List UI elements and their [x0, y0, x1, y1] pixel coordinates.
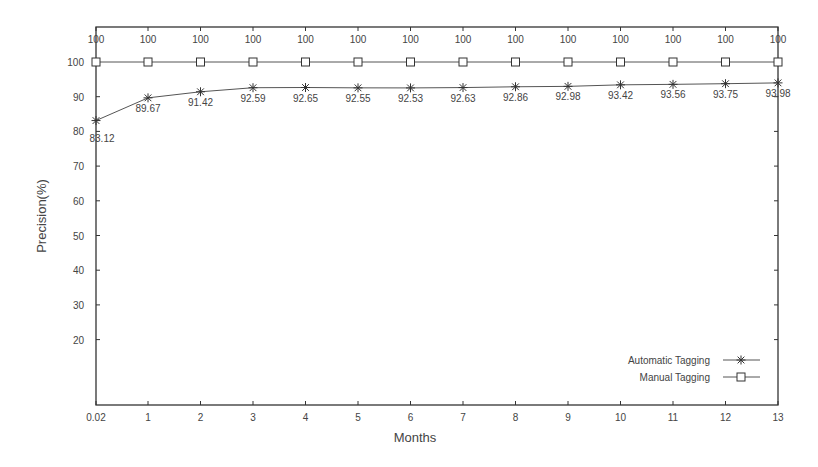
- data-label: 92.63: [450, 93, 475, 104]
- y-tick-label: 60: [73, 196, 85, 207]
- asterisk-marker-icon: [92, 116, 101, 125]
- asterisk-marker-icon: [511, 82, 520, 91]
- data-label: 100: [665, 34, 682, 45]
- legend-label: Automatic Tagging: [628, 355, 710, 366]
- data-label: 92.65: [293, 93, 318, 104]
- asterisk-marker-icon: [669, 80, 678, 89]
- y-tick-label: 100: [67, 57, 84, 68]
- series-manual-tagging: [92, 58, 782, 66]
- data-label: 92.53: [398, 93, 423, 104]
- data-label: 100: [770, 34, 787, 45]
- asterisk-marker-icon: [354, 83, 363, 92]
- data-label: 93.75: [713, 89, 738, 100]
- y-tick-label: 30: [73, 300, 85, 311]
- asterisk-marker-icon: [721, 79, 730, 88]
- data-label: 83.12: [89, 133, 114, 144]
- data-label: 92.59: [240, 93, 265, 104]
- square-marker-icon: [144, 58, 152, 66]
- x-tick-label: 3: [250, 412, 256, 423]
- x-tick-label: 10: [615, 412, 627, 423]
- data-label: 100: [350, 34, 367, 45]
- asterisk-marker-icon: [301, 83, 310, 92]
- y-tick-label: 20: [73, 335, 85, 346]
- asterisk-marker-icon: [249, 83, 258, 92]
- data-label: 100: [507, 34, 524, 45]
- data-label: 100: [140, 34, 157, 45]
- x-tick-label: 5: [355, 412, 361, 423]
- square-marker-icon: [459, 58, 467, 66]
- legend-item: Manual Tagging: [640, 372, 760, 383]
- data-label: 100: [297, 34, 314, 45]
- asterisk-marker-icon: [564, 82, 573, 91]
- square-marker-icon: [617, 58, 625, 66]
- y-tick-label: 40: [73, 265, 85, 276]
- y-tick-label: 80: [73, 126, 85, 137]
- data-label: 92.86: [503, 92, 528, 103]
- square-marker-icon: [722, 58, 730, 66]
- y-tick-label: 70: [73, 161, 85, 172]
- data-labels: 83.1289.6791.4292.5992.6592.5592.5392.63…: [88, 34, 791, 144]
- square-marker-icon: [354, 58, 362, 66]
- x-tick-label: 11: [668, 412, 679, 423]
- legend: Automatic TaggingManual Tagging: [628, 355, 760, 383]
- data-label: 89.67: [135, 103, 160, 114]
- y-tick-label: 50: [73, 231, 85, 242]
- square-marker-icon: [407, 58, 415, 66]
- square-marker-icon: [737, 373, 745, 381]
- legend-item: Automatic Tagging: [628, 355, 760, 366]
- x-tick-label: 7: [460, 412, 466, 423]
- square-marker-icon: [249, 58, 257, 66]
- asterisk-marker-icon: [616, 80, 625, 89]
- x-axis-title: Months: [394, 430, 437, 445]
- x-tick-label: 2: [198, 412, 204, 423]
- data-label: 93.56: [660, 89, 685, 100]
- square-marker-icon: [774, 58, 782, 66]
- data-label: 100: [455, 34, 472, 45]
- asterisk-marker-icon: [774, 78, 783, 87]
- square-marker-icon: [197, 58, 205, 66]
- plot-border: [96, 27, 778, 405]
- asterisk-marker-icon: [737, 356, 746, 365]
- asterisk-marker-icon: [196, 87, 205, 96]
- x-tick-label: 0.02: [86, 412, 106, 423]
- asterisk-marker-icon: [459, 83, 468, 92]
- legend-label: Manual Tagging: [640, 372, 710, 383]
- data-label: 100: [560, 34, 577, 45]
- square-marker-icon: [92, 58, 100, 66]
- data-label: 100: [612, 34, 629, 45]
- precision-line-chart: 2030405060708090100 0.021234567891011121…: [0, 0, 818, 467]
- x-tick-label: 1: [145, 412, 151, 423]
- x-tick-label: 13: [772, 412, 784, 423]
- data-label: 93.42: [608, 90, 633, 101]
- data-label: 100: [245, 34, 262, 45]
- square-marker-icon: [564, 58, 572, 66]
- data-label: 100: [88, 34, 105, 45]
- asterisk-marker-icon: [406, 83, 415, 92]
- x-tick-label: 4: [303, 412, 309, 423]
- y-tick-label: 90: [73, 92, 85, 103]
- data-label: 93.98: [765, 88, 790, 99]
- data-label: 100: [192, 34, 209, 45]
- asterisk-marker-icon: [144, 93, 153, 102]
- x-tick-label: 6: [408, 412, 414, 423]
- plot-frame: [96, 27, 778, 405]
- square-marker-icon: [669, 58, 677, 66]
- data-label: 91.42: [188, 97, 213, 108]
- data-label: 92.55: [345, 93, 370, 104]
- data-label: 100: [402, 34, 419, 45]
- x-tick-label: 9: [565, 412, 571, 423]
- square-marker-icon: [512, 58, 520, 66]
- data-label: 100: [717, 34, 734, 45]
- y-axis-title: Precision(%): [34, 179, 49, 253]
- x-tick-label: 8: [513, 412, 519, 423]
- data-label: 92.98: [555, 91, 580, 102]
- x-tick-label: 12: [720, 412, 732, 423]
- square-marker-icon: [302, 58, 310, 66]
